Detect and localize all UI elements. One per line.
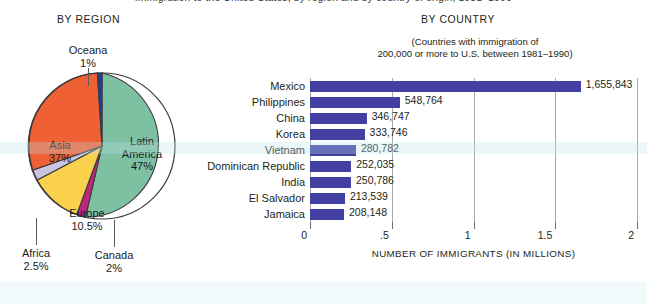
bar-chart-gridline — [637, 78, 638, 222]
x-axis-tick — [392, 222, 393, 229]
bar-value-label: 252,035 — [356, 158, 394, 170]
bar-value-label: 250,786 — [356, 174, 394, 186]
bar-category-label: Korea — [276, 128, 305, 140]
x-axis-tick-label: 0 — [301, 229, 310, 241]
x-axis-tick — [555, 222, 556, 229]
x-axis-tick — [637, 222, 638, 229]
bar-chart-row[interactable]: 1,655,843 — [310, 80, 637, 96]
bar-rect[interactable] — [310, 113, 367, 124]
bar-category-label: Mexico — [270, 80, 305, 92]
bar-category-label: El Salvador — [249, 192, 305, 204]
x-axis-tick-label: .5 — [380, 229, 392, 241]
bar-value-label: 333,746 — [370, 126, 408, 138]
bar-chart-row[interactable]: 548,764 — [310, 96, 637, 112]
x-axis-tick-label: 1.5 — [538, 229, 556, 241]
bar-value-label: 280,782 — [361, 142, 399, 154]
x-axis-tick-label: 2 — [628, 229, 637, 241]
x-axis-tick — [474, 222, 475, 229]
bar-rect[interactable] — [310, 145, 356, 156]
bar-chart-subtitle: (Countries with immigration of 200,000 o… — [330, 36, 620, 59]
x-axis-tick-label: 1 — [465, 229, 474, 241]
bar-category-label: Dominican Republic — [207, 160, 305, 172]
bar-category-label: India — [281, 176, 305, 188]
bar-rect[interactable] — [310, 97, 400, 108]
bar-value-label: 1,655,843 — [586, 78, 633, 90]
bar-rect[interactable] — [310, 177, 351, 188]
bar-subtitle-line-1: (Countries with immigration of — [330, 36, 620, 48]
bar-category-label: Philippines — [252, 96, 305, 108]
bar-rect[interactable] — [310, 193, 345, 204]
bar-value-label: 208,148 — [349, 206, 387, 218]
bar-rect[interactable] — [310, 209, 344, 220]
bar-category-label: Vietnam — [265, 144, 305, 156]
x-axis-tick — [310, 222, 311, 229]
bar-category-label: Jamaica — [264, 208, 305, 220]
bar-chart-x-axis-title: NUMBER OF IMMIGRANTS (IN MILLIONS) — [310, 248, 637, 259]
bar-chart-row[interactable]: 346,747 — [310, 112, 637, 128]
bar-category-label: China — [276, 112, 305, 124]
bar-value-label: 213,539 — [350, 190, 388, 202]
bar-category-labels: MexicoPhilippinesChinaKoreaVietnamDomini… — [160, 78, 305, 222]
bar-chart-plot-area: 1,655,843548,764346,747333,746280,782252… — [310, 78, 637, 222]
bar-rect[interactable] — [310, 161, 351, 172]
bar-chart-x-axis: 0.511.52 — [310, 222, 637, 244]
bar-rect[interactable] — [310, 81, 581, 92]
bar-chart-title: BY COUNTRY — [421, 13, 495, 25]
bar-value-label: 548,764 — [405, 94, 443, 106]
bar-value-label: 346,747 — [372, 110, 410, 122]
bar-chart-panel: BY COUNTRY (Countries with immigration o… — [0, 0, 647, 304]
bar-rect[interactable] — [310, 129, 365, 140]
bar-chart-row[interactable]: 333,746 — [310, 128, 637, 144]
bar-subtitle-line-2: 200,000 or more to U.S. between 1981–199… — [330, 48, 620, 60]
